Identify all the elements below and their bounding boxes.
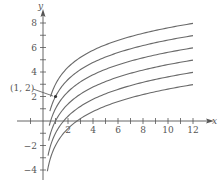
y-tick-label: −4 bbox=[24, 165, 38, 175]
y-tick-label: 2 bbox=[31, 92, 37, 102]
y-tick-label: 8 bbox=[31, 18, 37, 28]
y-tick-label: −2 bbox=[24, 141, 37, 151]
y-tick-label: 4 bbox=[31, 67, 37, 77]
solution-curve bbox=[50, 36, 193, 112]
chart-container: 246810128642−2−4 (1, 2) x y bbox=[0, 0, 221, 189]
x-axis-label: x bbox=[212, 116, 217, 126]
solution-curve bbox=[48, 72, 193, 155]
axes: 246810128642−2−4 bbox=[17, 9, 214, 180]
slope-curves-plot: 246810128642−2−4 (1, 2) x y bbox=[0, 0, 221, 189]
x-tick-label: 4 bbox=[90, 125, 96, 135]
x-tick-label: 10 bbox=[162, 125, 174, 135]
solution-curve bbox=[51, 23, 194, 96]
x-tick-label: 8 bbox=[140, 125, 146, 135]
solution-curves bbox=[47, 23, 193, 171]
point-label: (1, 2) bbox=[10, 83, 34, 93]
y-axis-label: y bbox=[37, 1, 44, 11]
x-tick-label: 12 bbox=[187, 125, 198, 135]
y-tick-label: 6 bbox=[31, 43, 37, 53]
x-tick-label: 6 bbox=[115, 125, 121, 135]
point-marker bbox=[54, 95, 57, 98]
